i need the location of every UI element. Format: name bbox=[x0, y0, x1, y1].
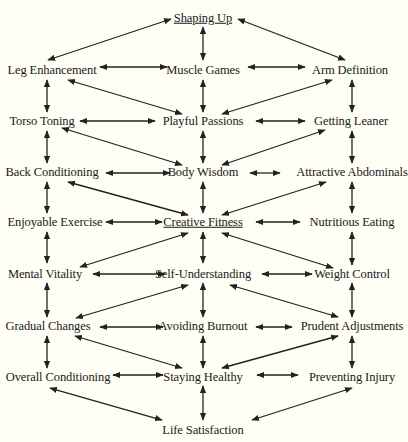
arrow-torso-toning-to-body-wisdom bbox=[62, 128, 182, 165]
node-gradual-changes: Gradual Changes bbox=[6, 320, 91, 333]
arrow-getting-leaner-to-body-wisdom bbox=[222, 130, 325, 165]
node-getting-leaner: Getting Leaner bbox=[314, 115, 388, 128]
node-back-conditioning: Back Conditioning bbox=[5, 166, 98, 179]
node-prudent-adjustments: Prudent Adjustments bbox=[301, 320, 404, 333]
node-preventing-injury: Preventing Injury bbox=[309, 371, 395, 384]
arrow-mental-vitality-to-creative-fitness bbox=[80, 233, 188, 267]
node-enjoyable-exercise: Enjoyable Exercise bbox=[7, 216, 102, 229]
arrow-gradual-changes-to-self-understanding bbox=[76, 285, 188, 318]
arrow-preventing-injury-to-life-satisfaction bbox=[252, 388, 352, 420]
node-leg-enhancement: Leg Enhancement bbox=[7, 64, 96, 77]
node-torso-toning: Torso Toning bbox=[9, 115, 74, 128]
arrow-self-understanding-to-prudent-adjustments bbox=[230, 285, 338, 317]
node-nutritious-eating: Nutritious Eating bbox=[310, 216, 395, 229]
node-body-wisdom: Body Wisdom bbox=[168, 166, 239, 179]
node-weight-control: Weight Control bbox=[314, 268, 390, 281]
node-attractive-abdominals: Attractive Abdominals bbox=[296, 166, 407, 179]
node-life-satisfaction: Life Satisfaction bbox=[162, 424, 243, 437]
node-mental-vitality: Mental Vitality bbox=[8, 268, 82, 281]
arrow-creative-fitness-to-weight-control bbox=[222, 233, 333, 268]
node-self-understanding: Self-Understanding bbox=[155, 268, 251, 281]
arrow-attractive-abdominals-to-creative-fitness bbox=[222, 182, 326, 215]
arrow-arm-definition-to-playful-passions bbox=[222, 80, 332, 114]
node-arm-definition: Arm Definition bbox=[312, 64, 388, 77]
arrow-gradual-changes-to-staying-healthy bbox=[75, 336, 182, 368]
arrow-leg-enhancement-to-playful-passions bbox=[68, 80, 182, 114]
node-shaping-up: Shaping Up bbox=[174, 12, 232, 25]
node-overall-conditioning: Overall Conditioning bbox=[6, 371, 111, 384]
node-avoiding-burnout: Avoiding Burnout bbox=[159, 320, 248, 333]
node-creative-fitness: Creative Fitness bbox=[163, 216, 242, 229]
arrow-prudent-adjustments-to-staying-healthy bbox=[222, 336, 338, 368]
node-staying-healthy: Staying Healthy bbox=[163, 371, 242, 384]
node-playful-passions: Playful Passions bbox=[163, 115, 244, 128]
node-muscle-games: Muscle Games bbox=[166, 64, 239, 77]
arrow-back-conditioning-to-creative-fitness bbox=[68, 182, 188, 215]
arrow-shaping-up-to-arm-definition bbox=[238, 19, 345, 60]
arrow-overall-conditioning-to-life-satisfaction bbox=[50, 388, 162, 420]
arrow-shaping-up-to-leg-enhancement bbox=[48, 19, 171, 60]
